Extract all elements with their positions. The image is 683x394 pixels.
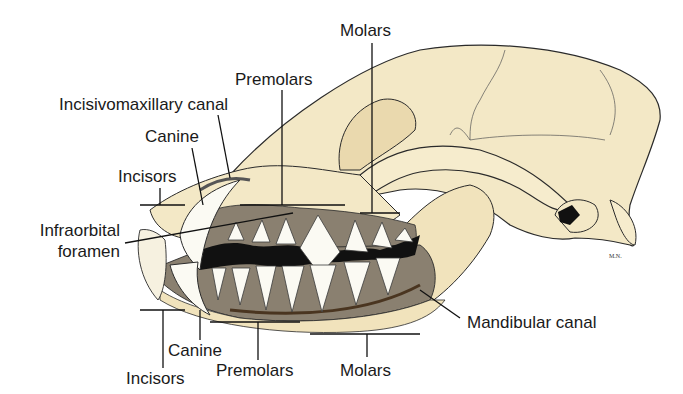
label-incisivomaxillary-canal: Incisivomaxillary canal (59, 96, 228, 114)
skull-illustration (0, 0, 683, 394)
label-infraorbital-foramen-1: Infraorbital (20, 222, 120, 240)
artist-signature: M.N. (609, 253, 622, 259)
label-incisors-lower: Incisors (126, 370, 185, 388)
label-mandibular-canal: Mandibular canal (467, 314, 596, 332)
label-incisors-upper: Incisors (118, 168, 177, 186)
label-canine-upper: Canine (145, 128, 199, 146)
label-molars-upper: Molars (340, 22, 391, 40)
label-premolars-upper: Premolars (235, 71, 312, 89)
skull-diagram: Molars Premolars Incisivomaxillary canal… (0, 0, 683, 394)
label-infraorbital-foramen-2: foramen (20, 243, 120, 261)
label-premolars-lower: Premolars (216, 362, 293, 380)
label-canine-lower: Canine (168, 342, 222, 360)
label-molars-lower: Molars (340, 362, 391, 380)
